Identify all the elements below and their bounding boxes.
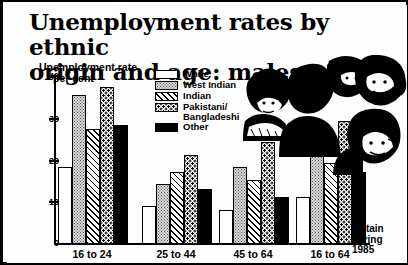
bar-white-25-to-44 — [142, 206, 156, 244]
bar-other-25-to-44 — [198, 189, 212, 244]
bar-white-45-to-64 — [219, 210, 233, 244]
bar-indian-45-to-64 — [247, 180, 261, 244]
bar-other-16-to-24 — [114, 125, 128, 244]
bar-west-indian-25-to-44 — [156, 184, 170, 244]
bar-white-16-to-64 — [296, 197, 310, 244]
bar-pakistani-bangladeshi-16-to-24 — [100, 87, 114, 244]
bar-indian-16-to-24 — [86, 129, 100, 244]
bar-pakistani-bangladeshi-25-to-44 — [184, 155, 198, 244]
legend-label-pakistani-bangladeshi: Pakistani/ Bangladeshi — [183, 102, 240, 121]
legend-item-white: White — [155, 69, 240, 79]
legend-label-other: Other — [183, 122, 208, 132]
legend-item-west-indian: West Indian — [155, 80, 240, 90]
legend-label-west-indian: West Indian — [183, 80, 236, 90]
bar-indian-16-to-64 — [324, 163, 338, 244]
y-tick-0: 0 — [27, 238, 59, 249]
x-axis-label-45-to-64: 45 to 64 — [217, 248, 289, 260]
source-caption: Britain spring 1985 — [352, 224, 384, 256]
legend-label-white: White — [183, 69, 209, 79]
bar-west-indian-45-to-64 — [233, 167, 247, 244]
x-axis-label-25-to-44: 25 to 44 — [140, 248, 212, 260]
source-caption-line1: Britain — [352, 224, 384, 235]
x-axis-label-16-to-24: 16 to 24 — [56, 248, 128, 260]
bar-west-indian-16-to-64 — [310, 146, 324, 244]
legend-swatch-pakistani-bangladeshi — [155, 103, 178, 112]
chart-canvas: Unemployment rates by ethnic origin and … — [7, 5, 407, 263]
legend-swatch-white — [155, 70, 178, 79]
bar-pakistani-bangladeshi-16-to-64 — [338, 121, 352, 244]
bar-indian-25-to-44 — [170, 172, 184, 244]
legend-label-indian: Indian — [183, 91, 211, 101]
legend-item-pakistani-bangladeshi: Pakistani/ Bangladeshi — [155, 102, 240, 121]
chart-title-line1: Unemployment rates by ethnic — [29, 8, 329, 60]
bar-pakistani-bangladeshi-45-to-64 — [261, 142, 275, 244]
legend-swatch-other — [155, 123, 178, 132]
chart-frame: Unemployment rates by ethnic origin and … — [0, 0, 408, 265]
bar-other-45-to-64 — [275, 197, 289, 244]
legend-swatch-indian — [155, 92, 178, 101]
chart-legend: White West Indian Indian Pakistani/ Bang… — [155, 69, 240, 133]
legend-item-other: Other — [155, 122, 240, 132]
legend-swatch-west-indian — [155, 81, 178, 90]
bar-west-indian-16-to-24 — [72, 95, 86, 244]
bar-group-16-to-24 — [56, 73, 128, 244]
source-caption-line3: 1985 — [352, 245, 384, 256]
y-axis-label-line2: per cent — [53, 73, 137, 84]
bar-group-16-to-64 — [294, 73, 366, 244]
y-axis-label: Unemployment rate per cent — [39, 62, 137, 84]
legend-label-bangladeshi: Bangladeshi — [183, 112, 240, 122]
bar-white-16-to-24 — [58, 167, 72, 244]
legend-item-indian: Indian — [155, 91, 240, 101]
